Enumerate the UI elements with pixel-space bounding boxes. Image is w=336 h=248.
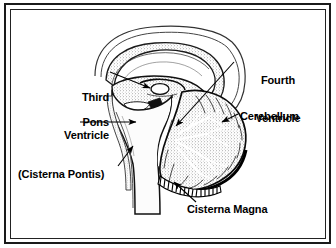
label-third-ventricle-line1: Third: [37, 91, 109, 104]
third-ventricle-cavity: [151, 84, 169, 95]
label-cisterna-magna: Cisterna Magna: [187, 203, 299, 216]
label-third-ventricle-line2: Ventricle: [37, 129, 109, 142]
label-cerebellum: Cerebellum: [240, 110, 328, 123]
label-fourth-ventricle: Fourth Ventricle: [236, 49, 320, 149]
label-pons: Pons: [37, 116, 109, 129]
label-fourth-ventricle-line1: Fourth: [236, 74, 320, 87]
brain-anatomy-figure: Third Ventricle Pons (Cisterna Pontis) F…: [0, 0, 336, 248]
label-cisterna-pontis: (Cisterna Pontis): [18, 168, 148, 181]
